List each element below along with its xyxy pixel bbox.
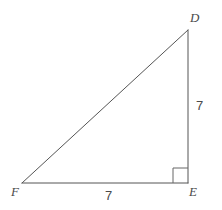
- vertex-label-d: D: [190, 11, 199, 24]
- triangle-side-fd: [22, 30, 188, 183]
- triangle-diagram: [0, 0, 222, 210]
- vertex-label-f: F: [11, 185, 19, 198]
- side-length-label-fe: 7: [105, 189, 112, 202]
- vertex-label-e: E: [189, 185, 197, 198]
- right-angle-marker-icon: [173, 168, 188, 183]
- side-length-label-de: 7: [196, 99, 203, 112]
- geometry-figure: D E F 7 7: [0, 0, 222, 210]
